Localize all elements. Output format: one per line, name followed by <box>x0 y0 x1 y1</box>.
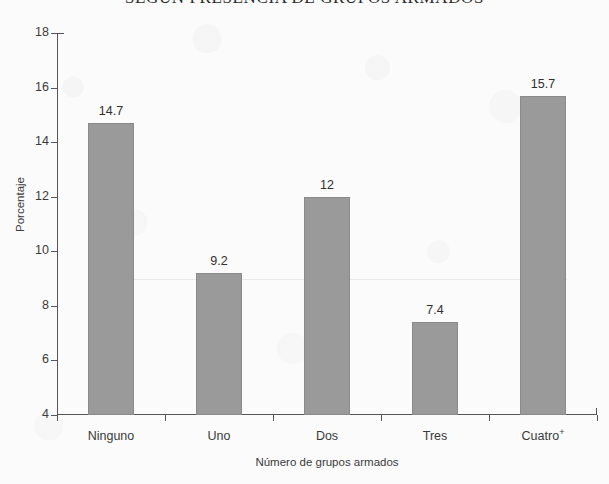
y-axis-tick <box>51 197 57 198</box>
y-axis-line <box>57 33 58 415</box>
y-axis-tick-label: 18 <box>9 26 49 39</box>
chart-title: SEGÚN PRESENCIA DE GRUPOS ARMADOS <box>0 0 609 8</box>
x-axis-tick <box>381 415 382 421</box>
x-axis-tick <box>165 415 166 421</box>
x-axis-right-cap <box>596 408 597 415</box>
y-axis-tick <box>51 88 57 89</box>
y-axis-tick <box>51 360 57 361</box>
x-axis-category-label: Cuatro+ <box>489 427 597 443</box>
bar <box>304 197 350 415</box>
plot-area: 4681012141618 NingunoUnoDosTresCuatro+ 1… <box>57 33 597 415</box>
x-axis-category-label: Uno <box>165 429 273 443</box>
x-axis-category-label: Ninguno <box>57 429 165 443</box>
y-axis-tick-label: 14 <box>9 135 49 148</box>
y-axis-tick-label: 4 <box>9 408 49 421</box>
x-axis-tick <box>489 415 490 421</box>
bar-value-label: 7.4 <box>381 303 489 317</box>
y-axis-tick-label: 10 <box>9 244 49 257</box>
y-axis-tick-label: 16 <box>9 81 49 94</box>
bar-value-label: 15.7 <box>489 77 597 91</box>
y-axis-tick <box>51 251 57 252</box>
bar-value-label: 14.7 <box>57 104 165 118</box>
bar <box>412 322 458 415</box>
x-axis-category-label: Tres <box>381 429 489 443</box>
x-axis-tick <box>273 415 274 421</box>
bar <box>520 96 566 415</box>
y-axis-tick <box>51 306 57 307</box>
x-axis-category-label: Dos <box>273 429 381 443</box>
y-axis-tick <box>51 33 57 34</box>
x-axis-title: Número de grupos armados <box>57 456 597 468</box>
x-axis-tick <box>597 415 598 421</box>
y-axis-tick-label: 6 <box>9 353 49 366</box>
bar-value-label: 12 <box>273 178 381 192</box>
x-axis-tick <box>57 415 58 421</box>
bar <box>196 273 242 415</box>
y-axis-tick-label: 8 <box>9 299 49 312</box>
bar <box>88 123 134 415</box>
y-axis-tick <box>51 142 57 143</box>
y-axis-title: Porcentaje <box>14 177 26 232</box>
y-axis-top-cap <box>57 33 64 34</box>
bar-value-label: 9.2 <box>165 254 273 268</box>
